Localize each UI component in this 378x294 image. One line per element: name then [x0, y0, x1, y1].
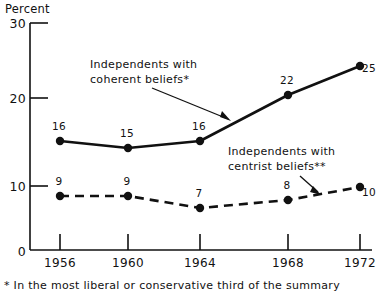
y-axis-title: Percent — [5, 2, 50, 16]
point-label-centrist-1960: 9 — [124, 175, 131, 187]
line-chart: Percent 30 20 10 0 1956 1960 1964 1968 1… — [0, 0, 378, 294]
annotation-centrist-arrow-head — [310, 186, 321, 195]
point-label-centrist-1964: 7 — [196, 187, 203, 199]
series-centrist-point — [124, 192, 132, 200]
x-tick-label-1968: 1968 — [272, 256, 304, 270]
series-centrist-point — [284, 196, 292, 204]
annotation-coherent-line2: coherent beliefs* — [90, 73, 189, 86]
point-label-coherent-1972: 25 — [362, 62, 376, 74]
y-tick-label-20: 20 — [9, 91, 26, 106]
x-tick-label-1972: 1972 — [344, 256, 376, 270]
y-tick-label-30: 30 — [9, 16, 26, 31]
series-centrist-point — [56, 192, 64, 200]
point-label-coherent-1968: 22 — [280, 74, 294, 86]
series-centrist-point — [196, 204, 204, 212]
point-label-centrist-1968: 8 — [284, 179, 291, 191]
annotation-coherent-line1: Independents with — [90, 58, 197, 71]
series-coherent-point — [284, 91, 292, 99]
series-coherent-point — [196, 137, 204, 145]
point-label-coherent-1964: 16 — [192, 120, 206, 132]
x-tick-label-1964: 1964 — [184, 256, 216, 270]
x-tick-label-1960: 1960 — [112, 256, 144, 270]
point-label-coherent-1960: 15 — [120, 127, 134, 139]
annotation-centrist-line2: centrist beliefs** — [228, 160, 326, 173]
annotation-centrist-line1: Independents with — [228, 145, 335, 158]
chart-figure: Percent 30 20 10 0 1956 1960 1964 1968 1… — [0, 0, 378, 294]
y-tick-label-10: 10 — [9, 179, 26, 194]
point-label-centrist-1972: 10 — [362, 186, 376, 198]
point-label-centrist-1956: 9 — [56, 175, 63, 187]
footnote: * In the most liberal or conservative th… — [4, 279, 340, 292]
series-coherent-point — [56, 137, 64, 145]
x-tick-label-1956: 1956 — [44, 256, 76, 270]
y-tick-label-0: 0 — [18, 244, 26, 259]
annotation-coherent-arrow-head — [220, 111, 231, 121]
annotation-coherent-arrow-shaft — [152, 88, 228, 119]
series-coherent-point — [124, 144, 132, 152]
point-label-coherent-1956: 16 — [52, 120, 66, 132]
